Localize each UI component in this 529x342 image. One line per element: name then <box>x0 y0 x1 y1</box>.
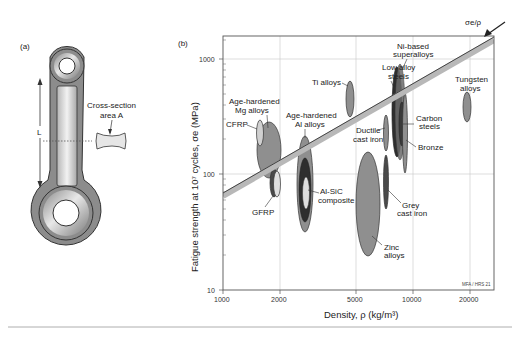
svg-text:composite: composite <box>318 196 355 205</box>
length-label: L <box>37 128 42 137</box>
y-tick-labels: 1000 100 10 <box>199 56 223 294</box>
cross-section-icon: Cross-section area A <box>87 101 136 149</box>
svg-text:20000: 20000 <box>459 296 479 303</box>
cross-section-label-1: Cross-section <box>87 101 136 110</box>
svg-text:Mg alloys: Mg alloys <box>235 106 269 115</box>
bubble-al-sic <box>303 177 310 209</box>
svg-text:steels: steels <box>388 72 409 81</box>
panel-a: (a) L Cross-section area A <box>20 42 136 245</box>
svg-text:steels: steels <box>419 122 440 131</box>
svg-text:Low alloy: Low alloy <box>382 63 415 72</box>
x-axis-title: Density, ρ (kg/m³) <box>324 309 398 320</box>
panel-a-label: (a) <box>20 42 30 51</box>
svg-text:GFRP: GFRP <box>252 208 274 217</box>
plot-area <box>223 37 494 256</box>
svg-text:10: 10 <box>207 287 215 294</box>
bubble-ductile-cast-iron <box>384 115 389 151</box>
svg-text:Al alloys: Al alloys <box>295 120 325 129</box>
svg-text:alloys: alloys <box>460 84 480 93</box>
svg-text:CFRP: CFRP <box>226 120 248 129</box>
svg-text:alloys: alloys <box>384 251 404 260</box>
svg-text:Al-SiC: Al-SiC <box>320 187 343 196</box>
bubble-bronze <box>403 93 408 173</box>
credit-text: MFA / HRS 21 <box>462 282 491 287</box>
figure: (a) L Cross-section area A <box>0 0 529 342</box>
bubble-zinc-alloys <box>356 152 380 256</box>
svg-text:Age-hardened: Age-hardened <box>286 111 337 120</box>
svg-text:1000: 1000 <box>199 56 215 63</box>
x-tick-labels: 1000 2000 5000 10000 20000 <box>214 290 479 303</box>
panel-b-label: (b) <box>178 39 188 48</box>
svg-text:2000: 2000 <box>271 296 287 303</box>
svg-text:Age-hardened: Age-hardened <box>229 97 280 106</box>
svg-text:10000: 10000 <box>402 296 422 303</box>
svg-text:Tungsten: Tungsten <box>455 75 488 84</box>
connecting-rod-icon <box>31 46 101 245</box>
panel-b: (b) <box>178 18 505 320</box>
svg-text:Ti alloys: Ti alloys <box>312 78 341 87</box>
svg-text:100: 100 <box>203 171 215 178</box>
bubble-tungsten-alloys <box>463 92 471 122</box>
svg-text:Bronze: Bronze <box>418 143 444 152</box>
guide-line <box>223 37 494 193</box>
svg-text:5000: 5000 <box>347 296 363 303</box>
guide-arrow <box>488 22 505 34</box>
svg-text:cast iron: cast iron <box>397 209 427 218</box>
bubble-grey-cast-iron <box>384 155 389 209</box>
svg-text:Ductile: Ductile <box>356 126 381 135</box>
y-axis-title: Fatigue strength at 10⁷ cycles, σe (MPa) <box>189 102 200 272</box>
bubble-cfrp <box>257 120 264 146</box>
svg-text:superalloys: superalloys <box>393 50 433 59</box>
bubble-ti-alloys <box>346 81 354 117</box>
svg-text:cast iron: cast iron <box>353 135 383 144</box>
cross-section-label-2: area A <box>100 111 124 120</box>
svg-text:1000: 1000 <box>214 296 230 303</box>
guide-line-label: σe/ρ <box>465 18 482 27</box>
